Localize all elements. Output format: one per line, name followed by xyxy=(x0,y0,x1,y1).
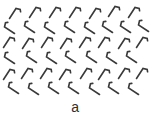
hook-mark-down-right xyxy=(118,20,132,34)
hook-mark-down-right xyxy=(106,81,120,95)
hook-mark-down-right xyxy=(44,51,58,65)
hook-mark-up-right xyxy=(21,36,35,50)
texture-figure-panel: a xyxy=(0,0,151,119)
hook-mark-up-right xyxy=(2,35,16,49)
hook-mark-up-right xyxy=(68,5,82,19)
hook-mark-up-right xyxy=(135,66,149,80)
hook-mark-up-right xyxy=(48,5,62,19)
hook-mark-up-right xyxy=(79,66,93,80)
hook-mark-down-right xyxy=(26,82,40,96)
hook-mark-up-right xyxy=(117,36,131,50)
hook-mark-up-right xyxy=(97,67,111,81)
hook-mark-down-right xyxy=(62,20,76,34)
hook-mark-up-right xyxy=(59,36,73,50)
hook-mark-down-right xyxy=(46,81,60,95)
hook-mark-up-right xyxy=(117,66,131,80)
hook-mark-down-right xyxy=(82,21,96,35)
hook-mark-up-right xyxy=(107,4,121,18)
hook-mark-up-right xyxy=(2,67,16,81)
hook-mark-down-right xyxy=(63,50,77,64)
hook-mark-up-right xyxy=(58,67,72,81)
hook-mark-up-right xyxy=(127,5,141,19)
hook-mark-up-right xyxy=(28,5,42,19)
hook-mark-up-right xyxy=(88,6,102,20)
hook-mark-down-right xyxy=(24,50,38,64)
hook-mark-up-right xyxy=(8,6,22,20)
hook-mark-down-right xyxy=(87,82,101,96)
hook-mark-up-right xyxy=(135,35,149,49)
hook-mark-down-right xyxy=(66,81,80,95)
hook-mark-down-right xyxy=(2,51,16,65)
hook-mark-down-right xyxy=(100,20,114,34)
hook-mark-up-right xyxy=(40,35,54,49)
figure-label: a xyxy=(0,100,151,115)
hook-mark-down-right xyxy=(104,51,118,65)
hook-mark-down-right xyxy=(84,50,98,64)
hook-mark-down-right xyxy=(22,20,36,34)
hook-mark-up-right xyxy=(97,35,111,49)
hook-mark-up-right xyxy=(39,66,53,80)
hook-mark-down-right xyxy=(124,50,138,64)
hook-mark-up-right xyxy=(20,66,34,80)
hook-mark-up-right xyxy=(78,35,92,49)
hook-mark-down-right xyxy=(136,19,150,33)
hook-mark-down-right xyxy=(42,21,56,35)
hook-mark-down-right xyxy=(2,21,16,35)
hook-mark-down-right xyxy=(126,82,140,96)
hook-mark-down-right xyxy=(6,81,20,95)
